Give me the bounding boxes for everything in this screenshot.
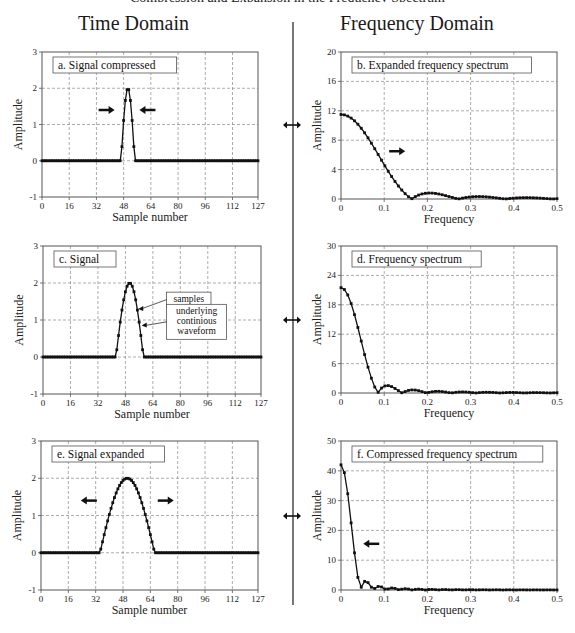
data-point-marker — [144, 513, 147, 516]
data-point-marker — [346, 115, 349, 118]
x-tick-label: 16 — [65, 201, 75, 211]
data-point-marker — [434, 192, 437, 195]
data-point-marker — [478, 195, 481, 198]
data-point-marker — [407, 389, 410, 392]
data-point-marker — [340, 286, 343, 289]
data-point-marker — [444, 194, 447, 197]
data-point-marker — [549, 588, 552, 591]
y-tick-label: 10 — [327, 555, 337, 565]
y-tick-label: 2 — [34, 278, 39, 288]
data-point-marker — [532, 588, 535, 591]
data-point-marker — [142, 507, 145, 510]
data-point-marker — [114, 356, 117, 359]
data-point-marker — [410, 197, 413, 200]
arrowhead-right-icon — [297, 122, 301, 129]
y-tick-label: 30 — [327, 241, 337, 251]
plot-e: 0163248648096112127-10123Sample numberAm… — [10, 436, 265, 617]
data-point-marker — [122, 298, 125, 301]
data-line — [341, 465, 557, 590]
y-tick-label: 0 — [32, 548, 37, 558]
y-tick-label: 2 — [32, 473, 37, 483]
y-tick-label: 0 — [34, 352, 39, 362]
data-point-marker — [119, 321, 122, 324]
data-point-marker — [400, 391, 403, 394]
data-point-marker — [131, 119, 134, 122]
data-point-marker — [340, 113, 343, 116]
plot-c: 0163248648096112127-10123Sample numberAm… — [12, 241, 268, 421]
y-tick-label: 0 — [33, 156, 38, 166]
y-tick-label: 1 — [34, 315, 39, 325]
data-point-marker — [115, 348, 118, 351]
data-point-marker — [383, 164, 386, 167]
data-point-marker — [380, 586, 383, 589]
data-point-marker — [434, 588, 437, 591]
data-point-marker — [444, 391, 447, 394]
data-point-marker — [505, 391, 508, 394]
data-point-marker — [137, 492, 140, 495]
data-point-marker — [129, 99, 132, 102]
data-point-marker — [475, 589, 478, 592]
data-point-marker — [257, 551, 260, 554]
data-point-marker — [390, 587, 393, 590]
x-tick-label: 96 — [201, 201, 211, 211]
x-tick-label: 32 — [92, 201, 101, 211]
data-point-marker — [383, 588, 386, 591]
data-point-marker — [124, 99, 127, 102]
data-point-marker — [542, 197, 545, 200]
data-point-marker — [525, 589, 528, 592]
x-tick-label: 0 — [40, 201, 45, 211]
data-point-marker — [133, 290, 136, 293]
data-line — [341, 288, 557, 393]
data-point-marker — [441, 193, 444, 196]
data-point-marker — [495, 588, 498, 591]
data-point-marker — [350, 302, 353, 305]
data-point-marker — [475, 392, 478, 395]
data-point-marker — [539, 391, 542, 394]
x-axis-label: Frequency — [424, 212, 475, 226]
data-point-marker — [343, 471, 346, 474]
data-point-marker — [488, 196, 491, 199]
data-point-marker — [532, 196, 535, 199]
data-point-marker — [515, 589, 518, 592]
y-axis-label: Amplitude — [310, 100, 324, 151]
data-point-marker — [437, 193, 440, 196]
y-tick-label: 4 — [332, 165, 337, 175]
data-point-marker — [556, 197, 559, 200]
data-point-marker — [370, 142, 373, 145]
data-point-marker — [535, 197, 538, 200]
data-point-marker — [414, 195, 417, 198]
data-point-marker — [431, 390, 434, 393]
data-point-marker — [518, 196, 521, 199]
data-point-marker — [502, 589, 505, 592]
data-point-marker — [257, 159, 260, 162]
y-axis-label: Amplitude — [11, 99, 25, 150]
chart-title: d. Frequency spectrum — [357, 253, 462, 266]
data-point-marker — [468, 391, 471, 394]
data-point-marker — [434, 390, 437, 393]
data-point-marker — [502, 391, 505, 394]
data-point-marker — [461, 588, 464, 591]
y-tick-label: 6 — [332, 359, 337, 369]
data-point-marker — [101, 540, 104, 543]
data-point-marker — [346, 492, 349, 495]
data-point-marker — [360, 127, 363, 130]
data-point-marker — [370, 377, 373, 380]
plot-f: 00.10.20.30.40.501020304050FrequencyAmpl… — [310, 436, 563, 617]
chart-title: a. Signal compressed — [58, 59, 156, 72]
data-point-marker — [124, 290, 127, 293]
data-point-marker — [129, 282, 132, 285]
data-point-marker — [410, 389, 413, 392]
data-point-marker — [464, 391, 467, 394]
data-point-marker — [367, 581, 370, 584]
data-point-marker — [532, 391, 535, 394]
chart-title-box: c. Signal — [54, 251, 116, 267]
x-tick-label: 0.4 — [508, 203, 520, 213]
data-point-marker — [549, 392, 552, 395]
chart-title: f. Compressed frequency spectrum — [357, 448, 517, 461]
data-point-marker — [471, 195, 474, 198]
figure-canvas: 0163248648096112127-10123Sample numberAm… — [0, 0, 575, 633]
data-point-marker — [108, 513, 111, 516]
data-point-marker — [390, 385, 393, 388]
data-point-marker — [458, 588, 461, 591]
fourier-pair-arrow-icon — [283, 317, 301, 324]
